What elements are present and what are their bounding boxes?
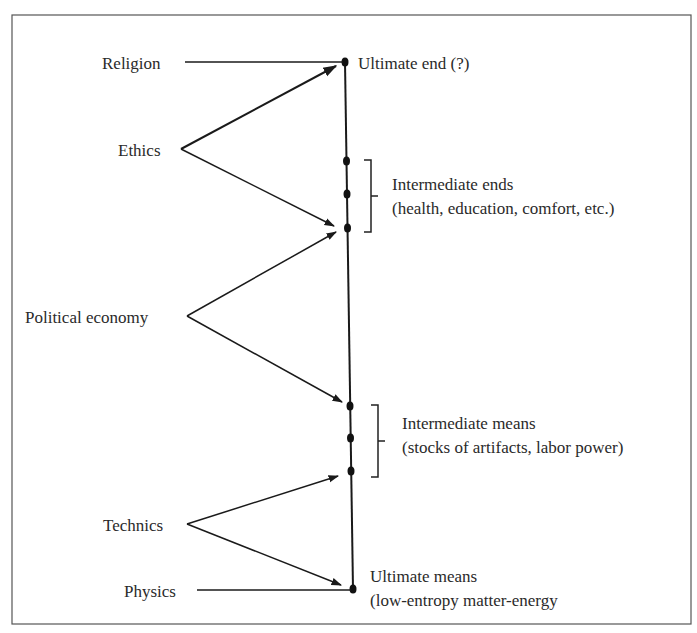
label-political-economy: Political economy	[25, 308, 149, 327]
intermediate-mean-dot-1	[347, 402, 354, 411]
label-technics: Technics	[103, 516, 163, 535]
intermediate-mean-dot-3	[348, 467, 355, 476]
ends-means-diagram: Religion Ethics Political economy Techni…	[0, 0, 697, 633]
ultimate-means-dot	[350, 585, 357, 594]
label-ultimate-means-title: Ultimate means	[370, 567, 477, 586]
intermediate-end-dot-2	[344, 190, 351, 199]
label-intermediate-means-title: Intermediate means	[402, 414, 536, 433]
label-ultimate-end: Ultimate end (?)	[358, 54, 469, 73]
label-physics: Physics	[124, 582, 176, 601]
label-intermediate-ends-detail: (health, education, comfort, etc.)	[392, 199, 614, 218]
label-ultimate-means-detail: (low-entropy matter-energy	[370, 591, 558, 610]
intermediate-mean-dot-2	[347, 434, 354, 443]
label-ethics: Ethics	[118, 141, 161, 160]
intermediate-end-dot-1	[343, 157, 350, 166]
label-intermediate-means-detail: (stocks of artifacts, labor power)	[402, 438, 623, 457]
intermediate-end-dot-3	[344, 224, 351, 233]
label-religion: Religion	[102, 54, 161, 73]
label-intermediate-ends-title: Intermediate ends	[392, 175, 513, 194]
